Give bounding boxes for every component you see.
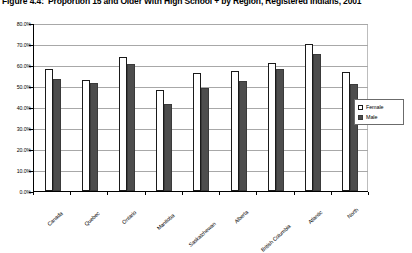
- bar-male[interactable]: [90, 83, 98, 191]
- x-axis-tick-mark: [70, 192, 71, 195]
- figure-number-label: Figure 4.4:: [2, 0, 44, 6]
- legend-label-female: Female: [366, 104, 383, 110]
- x-axis-tick-mark: [182, 192, 183, 195]
- bar-group: [108, 24, 145, 191]
- x-axis-tick-label: North: [346, 206, 359, 219]
- legend-item-female[interactable]: Female: [358, 102, 400, 112]
- bar-male[interactable]: [164, 104, 172, 191]
- plot-area: [33, 24, 368, 192]
- bar-group: [220, 24, 257, 191]
- bar-female[interactable]: [193, 73, 201, 191]
- bar-female[interactable]: [156, 90, 164, 191]
- x-axis-tick-label: Quebec: [83, 210, 101, 227]
- bar-group: [34, 24, 71, 191]
- x-axis-tick-mark: [219, 192, 220, 195]
- bar-group: [71, 24, 108, 191]
- bar-group: [257, 24, 294, 191]
- legend-swatch-female-icon: [358, 105, 363, 110]
- bar-female[interactable]: [119, 57, 127, 191]
- x-axis-tick-label: Manitoba: [156, 212, 176, 231]
- bar-male[interactable]: [313, 54, 321, 191]
- x-axis-tick-mark: [368, 192, 369, 195]
- x-axis-tick-label: British Columbia: [260, 223, 292, 253]
- x-axis-tick-label: Atlantic: [307, 209, 324, 225]
- plot-inner: [34, 24, 368, 191]
- x-axis-tick-mark: [256, 192, 257, 195]
- figure-title-block: Figure 4.4: Proportion 15 and Older With…: [0, 0, 412, 22]
- bar-female[interactable]: [342, 72, 350, 191]
- bar-group: [146, 24, 183, 191]
- bar-female[interactable]: [82, 80, 90, 191]
- y-axis: 0.0%10.0%20.0%30.0%40.0%50.0%60.0%70.0%8…: [0, 24, 31, 194]
- bar-male[interactable]: [53, 79, 61, 191]
- bar-male[interactable]: [276, 69, 284, 191]
- x-axis-tick-label: Ontario: [121, 209, 138, 225]
- x-axis: CanadaQuebecOntarioManitobaSaskatchewanA…: [33, 192, 368, 232]
- bar-group: [183, 24, 220, 191]
- chart-legend: Female Male: [354, 99, 404, 125]
- bar-group: [295, 24, 332, 191]
- legend-swatch-male-icon: [358, 115, 363, 120]
- x-axis-tick-mark: [294, 192, 295, 195]
- bar-female[interactable]: [45, 69, 53, 191]
- x-axis-tick-label: Saskatchewan: [188, 221, 217, 248]
- bar-female[interactable]: [305, 44, 313, 191]
- legend-label-male: Male: [366, 114, 377, 120]
- legend-item-male[interactable]: Male: [358, 112, 400, 122]
- bar-male[interactable]: [239, 81, 247, 191]
- bar-male[interactable]: [127, 64, 135, 191]
- bar-female[interactable]: [268, 63, 276, 191]
- x-axis-tick-mark: [107, 192, 108, 195]
- x-axis-tick-mark: [33, 192, 34, 195]
- page-title: Proportion 15 and Older With High School…: [48, 0, 412, 7]
- x-axis-tick-mark: [331, 192, 332, 195]
- x-axis-tick-label: Canada: [46, 210, 64, 227]
- bar-female[interactable]: [231, 71, 239, 191]
- x-axis-tick-mark: [145, 192, 146, 195]
- x-axis-tick-label: Alberta: [233, 209, 249, 224]
- bar-male[interactable]: [201, 88, 209, 191]
